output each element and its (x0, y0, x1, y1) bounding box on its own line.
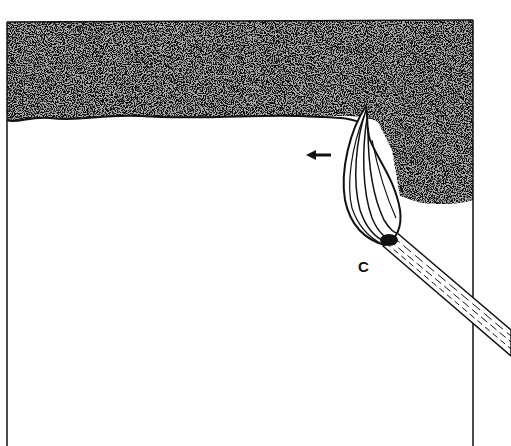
paint-wash (0, 0, 511, 220)
illustration (0, 0, 511, 446)
arrow-left-icon (306, 150, 331, 160)
figure-label: C (358, 258, 369, 275)
